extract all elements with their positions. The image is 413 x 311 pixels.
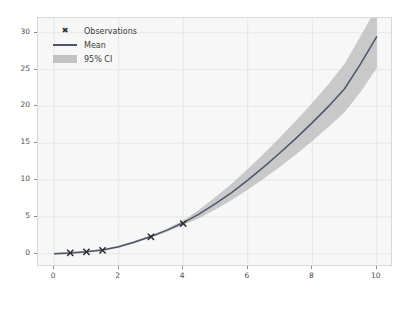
x-tick-label: 0 (41, 271, 65, 280)
legend-label-mean: Mean (84, 41, 106, 50)
legend: ✖ Observations Mean 95% CI (46, 21, 143, 69)
x-tick-label: 4 (170, 271, 194, 280)
mean-line (54, 36, 377, 253)
y-tick-label: 30 (8, 27, 30, 36)
y-tick-label: 10 (8, 174, 30, 183)
y-tick-label: 15 (8, 137, 30, 146)
observation-markers (67, 220, 186, 256)
y-tick-mark (34, 32, 37, 33)
y-tick-mark (34, 216, 37, 217)
y-tick-label: 25 (8, 64, 30, 73)
x-tick-mark (53, 266, 54, 269)
x-tick-label: 6 (235, 271, 259, 280)
x-tick-mark (311, 266, 312, 269)
band-swatch-icon (50, 55, 80, 63)
x-tick-label: 2 (106, 271, 130, 280)
x-tick-mark (247, 266, 248, 269)
y-tick-mark (34, 105, 37, 106)
line-swatch-icon (50, 44, 80, 45)
figure: 051015202530 0246810 ✖ Observations Mean… (0, 0, 413, 311)
legend-item-observations: ✖ Observations (50, 24, 137, 38)
x-tick-label: 10 (364, 271, 388, 280)
legend-item-mean: Mean (50, 38, 137, 52)
x-tick-label: 8 (299, 271, 323, 280)
y-tick-label: 0 (8, 248, 30, 257)
y-tick-mark (34, 179, 37, 180)
legend-label-ci: 95% CI (84, 55, 112, 64)
y-tick-mark (34, 253, 37, 254)
y-tick-label: 5 (8, 211, 30, 220)
x-tick-mark (182, 266, 183, 269)
x-tick-mark (118, 266, 119, 269)
y-tick-mark (34, 69, 37, 70)
x-marker-icon: ✖ (50, 27, 80, 35)
legend-item-ci: 95% CI (50, 52, 137, 66)
y-tick-label: 20 (8, 100, 30, 109)
legend-label-observations: Observations (84, 27, 137, 36)
y-tick-mark (34, 142, 37, 143)
x-tick-mark (376, 266, 377, 269)
